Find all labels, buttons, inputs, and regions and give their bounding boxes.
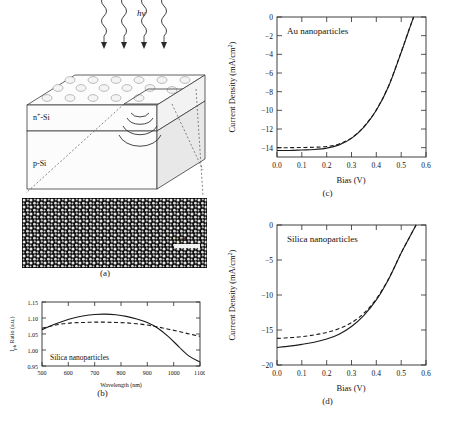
svg-text:0.0: 0.0 <box>272 161 282 170</box>
panel-b-y-tick-labels: 0.95 1.00 1.05 1.10 1.15 <box>28 300 39 370</box>
svg-text:−15: −15 <box>261 326 273 335</box>
panel-d-chart: 0 −5 −10 −15 −20 0.0 0.1 0.2 0.3 0.4 0.5… <box>200 208 455 408</box>
svg-text:0.5: 0.5 <box>397 369 407 378</box>
panel-b-x-tick-labels: 500 600 700 800 900 1000 1100 <box>38 370 206 376</box>
svg-text:600: 600 <box>64 370 73 376</box>
figure-root: hv n+-Si p-Si <box>0 0 455 421</box>
layer-n-si-label: n+-Si <box>33 112 51 122</box>
panel-c-x-ticks <box>277 17 426 157</box>
panel-c-y-axis-label: Current Density (mA/cm2) <box>227 41 237 132</box>
svg-text:1000: 1000 <box>168 370 180 376</box>
panel-d-label: (d) <box>200 396 455 406</box>
svg-text:−6: −6 <box>265 69 273 78</box>
svg-text:−12: −12 <box>261 125 273 134</box>
svg-text:0: 0 <box>269 13 273 22</box>
svg-text:900: 900 <box>143 370 152 376</box>
svg-text:800: 800 <box>117 370 126 376</box>
panel-d-x-axis-label: Bias (V) <box>336 383 365 393</box>
panel-d-x-ticks <box>277 225 426 365</box>
panel-c-y-tick-labels: 0 −2 −4 −6 −8 −10 −12 −14 <box>261 13 273 153</box>
svg-text:−10: −10 <box>261 291 273 300</box>
svg-text:1.00: 1.00 <box>28 348 39 354</box>
sem-micrograph: 1 µm <box>22 198 207 268</box>
panel-c-x-axis-label: Bias (V) <box>336 175 365 185</box>
svg-text:0.6: 0.6 <box>421 161 431 170</box>
panel-c-label: (c) <box>200 188 455 198</box>
panel-c-x-tick-labels: 0.0 0.1 0.2 0.3 0.4 0.5 0.6 <box>272 161 431 170</box>
panel-b-annotation: Silica nanoparticles <box>50 353 109 362</box>
svg-text:−4: −4 <box>265 50 273 59</box>
svg-text:0.1: 0.1 <box>297 161 307 170</box>
svg-text:−2: −2 <box>265 32 273 41</box>
panel-c-series <box>277 17 414 151</box>
panel-a-label: (a) <box>0 268 210 278</box>
svg-text:0.3: 0.3 <box>347 369 357 378</box>
panel-c-annotation: Au nanoparticles <box>287 26 349 36</box>
svg-text:0.4: 0.4 <box>372 369 382 378</box>
svg-text:0.6: 0.6 <box>421 369 431 378</box>
svg-text:1.15: 1.15 <box>28 300 39 306</box>
svg-text:0.5: 0.5 <box>397 161 407 170</box>
svg-text:0.1: 0.1 <box>297 369 307 378</box>
svg-text:700: 700 <box>90 370 99 376</box>
panel-d-y-axis-label: Current Density (mA/cm2) <box>227 249 237 340</box>
panel-b-y-axis-label: Iph Ratio (a.u.) <box>9 316 17 351</box>
sem-scale-bar-label: 1 µm <box>174 236 187 242</box>
svg-text:0: 0 <box>269 221 273 230</box>
svg-text:−5: −5 <box>265 256 273 265</box>
svg-text:0.3: 0.3 <box>347 161 357 170</box>
panel-b-label: (b) <box>0 388 205 398</box>
layer-p-si-label: p-Si <box>33 159 47 168</box>
svg-text:−14: −14 <box>261 144 273 153</box>
svg-text:0.0: 0.0 <box>272 369 282 378</box>
panel-c-chart: 0 −2 −4 −6 −8 −10 −12 −14 0.0 0.1 0.2 0.… <box>200 0 455 200</box>
svg-text:0.2: 0.2 <box>322 161 332 170</box>
photon-wave-icon <box>102 0 167 36</box>
panel-d-x-tick-labels: 0.0 0.1 0.2 0.3 0.4 0.5 0.6 <box>272 369 431 378</box>
panel-d-y-tick-labels: 0 −5 −10 −15 −20 <box>261 221 273 370</box>
svg-text:0.2: 0.2 <box>322 369 332 378</box>
panel-c-y-ticks <box>277 17 426 148</box>
svg-text:1.05: 1.05 <box>28 332 39 338</box>
svg-text:−8: −8 <box>265 88 273 97</box>
panel-b-chart: 0.95 1.00 1.05 1.10 1.15 500 600 700 800… <box>0 288 205 421</box>
svg-text:0.4: 0.4 <box>372 161 382 170</box>
panel-d-plot-area <box>277 225 426 365</box>
layer-p-si-front <box>27 131 157 189</box>
panel-d-y-ticks <box>277 225 426 365</box>
svg-text:500: 500 <box>38 370 47 376</box>
svg-text:−10: −10 <box>261 106 273 115</box>
arrow-down-icon <box>101 36 167 49</box>
svg-text:1.10: 1.10 <box>28 316 39 322</box>
panel-d-annotation: Silica nanoparticles <box>287 234 358 244</box>
illumination-label: hv <box>137 8 146 18</box>
panel-c-plot-area <box>277 17 426 157</box>
svg-text:0.95: 0.95 <box>28 364 39 370</box>
